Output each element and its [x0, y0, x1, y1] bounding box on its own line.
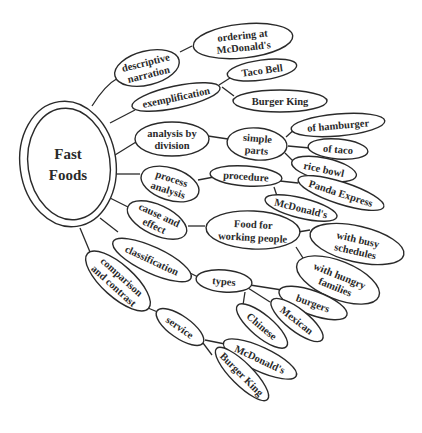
edge-center-descriptive: [92, 78, 118, 106]
node-label: division: [154, 140, 189, 151]
node-label: Burger King: [252, 96, 309, 107]
node-analysis-by-division: analysis by division: [135, 122, 209, 156]
node-ordering-at-mcdonalds: ordering at McDonald's: [191, 19, 294, 63]
edge-center-comparison: [80, 228, 90, 252]
edge-food-hungry: [296, 247, 303, 258]
center-label-line1: Fast: [54, 146, 82, 162]
center-label-line2: Foods: [49, 167, 88, 183]
edge-service-mcd: [205, 340, 225, 344]
node-food-for-working-people: Food for working people: [205, 209, 301, 252]
edge-center-exemplification: [110, 110, 135, 123]
node-label: Food for: [234, 218, 274, 231]
node-of-hamburger: of hamburger: [290, 110, 386, 140]
node-types: types: [195, 268, 253, 295]
cluster-diagram: Fast Foods descriptive narration orderin…: [0, 0, 422, 433]
edge-center-classification: [100, 218, 118, 232]
center-node-fast-foods: Fast Foods: [12, 95, 125, 233]
node-procedure: procedure: [209, 164, 282, 189]
edge-exempl-tacobell: [219, 78, 230, 85]
edge-types-burgers: [250, 285, 282, 290]
node-service: service: [151, 302, 209, 352]
edge-simple-taco: [288, 146, 310, 148]
node-taco-bell: Taco Bell: [226, 55, 298, 85]
node-simple-parts: simple parts: [226, 125, 289, 162]
edge-types-chinese: [243, 292, 245, 305]
node-label: parts: [244, 144, 268, 157]
edge-center-analysis: [115, 142, 136, 155]
node-burger-king-exempl: Burger King: [233, 90, 327, 112]
edge-analysis-simple: [208, 136, 228, 139]
edge-descriptive-ordering: [180, 46, 192, 52]
edge-exempl-burgerking: [222, 87, 234, 96]
node-label: types: [212, 275, 236, 288]
edge-procedure-panda: [280, 181, 298, 183]
edge-types-mexican: [248, 288, 270, 302]
node-descriptive-narration: descriptive narration: [111, 44, 183, 93]
node-label: analysis by: [147, 128, 197, 139]
edge-center-cause: [110, 198, 128, 207]
edge-service-bk: [203, 343, 212, 355]
